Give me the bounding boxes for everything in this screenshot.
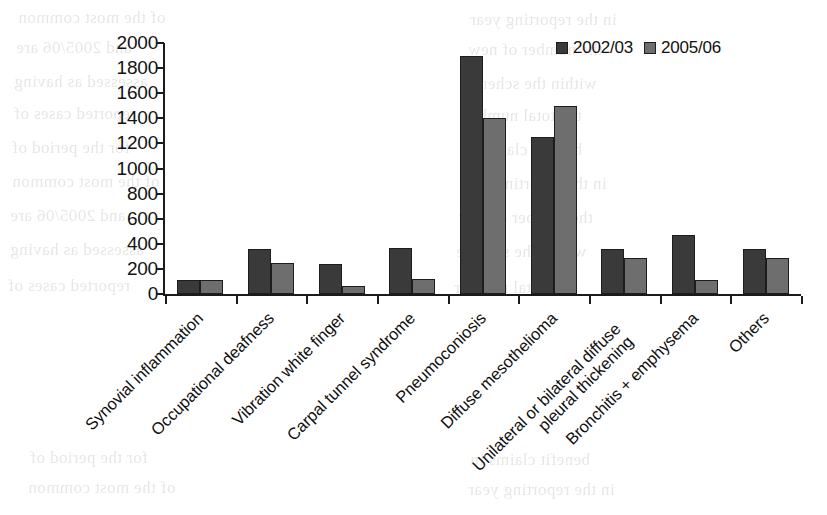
- bar-2005-06-2: [342, 286, 365, 294]
- bar-2005-06-3: [412, 279, 435, 294]
- bar-2005-06-6: [624, 258, 647, 294]
- bar-2002-03-7: [672, 235, 695, 294]
- y-tick-label-400: 400: [127, 233, 158, 255]
- x-tick-mark-5: [518, 296, 520, 304]
- y-tick-mark-400: [157, 243, 164, 245]
- y-tick-label-1600: 1600: [117, 82, 158, 104]
- y-tick-mark-0: [157, 293, 164, 295]
- y-tick-label-800: 800: [127, 183, 158, 205]
- y-tick-mark-1200: [157, 142, 164, 144]
- y-tick-mark-2000: [157, 42, 164, 44]
- x-axis-line: [163, 294, 801, 296]
- bar-group: [660, 43, 731, 294]
- bar-group: [589, 43, 660, 294]
- x-tick-mark-7: [660, 296, 662, 304]
- y-tick-mark-1000: [157, 168, 164, 170]
- x-tick-mark-9: [801, 296, 803, 304]
- bar-2002-03-4: [460, 56, 483, 294]
- y-tick-mark-600: [157, 218, 164, 220]
- x-tick-mark-8: [730, 296, 732, 304]
- bar-2005-06-0: [200, 280, 223, 294]
- bar-2002-03-8: [743, 249, 766, 294]
- x-tick-mark-1: [236, 296, 238, 304]
- y-tick-label-1800: 1800: [117, 57, 158, 79]
- bar-2005-06-1: [271, 263, 294, 294]
- legend-swatch-2005-06: [644, 42, 656, 54]
- x-tick-mark-6: [589, 296, 591, 304]
- y-tick-mark-200: [157, 268, 164, 270]
- y-tick-mark-1600: [157, 92, 164, 94]
- y-tick-label-600: 600: [127, 208, 158, 230]
- y-tick-mark-800: [157, 193, 164, 195]
- bar-chart-figure: 2002/03 2005/06 020040060080010001200140…: [0, 0, 827, 515]
- bar-group: [306, 43, 377, 294]
- bar-2005-06-5: [554, 106, 577, 294]
- plot-area: [165, 43, 801, 294]
- x-tick-mark-4: [448, 296, 450, 304]
- legend-item-2002-03: 2002/03: [556, 38, 633, 58]
- y-tick-mark-1800: [157, 67, 164, 69]
- chart-legend: 2002/03 2005/06: [556, 38, 721, 58]
- bar-2005-06-7: [695, 280, 718, 294]
- bar-group: [236, 43, 307, 294]
- legend-label-2005-06: 2005/06: [661, 38, 721, 58]
- bar-group: [730, 43, 801, 294]
- y-tick-mark-1400: [157, 117, 164, 119]
- bar-2002-03-6: [601, 249, 624, 294]
- x-tick-mark-2: [306, 296, 308, 304]
- bar-2002-03-1: [248, 249, 271, 294]
- bar-group: [448, 43, 519, 294]
- bar-2002-03-3: [389, 248, 412, 294]
- bar-group: [377, 43, 448, 294]
- x-tick-mark-0: [165, 296, 167, 304]
- bar-2005-06-8: [766, 258, 789, 294]
- y-tick-label-200: 200: [127, 258, 158, 280]
- y-tick-label-2000: 2000: [117, 32, 158, 54]
- bar-group: [165, 43, 236, 294]
- x-tick-mark-3: [377, 296, 379, 304]
- bar-2005-06-4: [483, 118, 506, 294]
- bar-2002-03-5: [531, 137, 554, 294]
- legend-swatch-2002-03: [556, 42, 568, 54]
- bar-2002-03-2: [319, 264, 342, 294]
- legend-label-2002-03: 2002/03: [573, 38, 633, 58]
- legend-item-2005-06: 2005/06: [644, 38, 721, 58]
- y-tick-label-1200: 1200: [117, 132, 158, 154]
- y-tick-label-1000: 1000: [117, 158, 158, 180]
- bar-2002-03-0: [177, 280, 200, 294]
- y-tick-label-1400: 1400: [117, 107, 158, 129]
- bar-group: [518, 43, 589, 294]
